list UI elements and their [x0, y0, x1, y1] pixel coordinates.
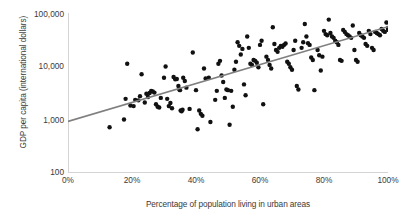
- x-tick-0: 0%: [48, 176, 88, 184]
- data-point: [229, 89, 233, 93]
- data-point: [352, 48, 356, 52]
- data-point: [291, 48, 295, 52]
- data-point: [371, 48, 375, 52]
- data-point: [231, 105, 235, 109]
- data-point: [384, 20, 388, 24]
- data-point: [365, 44, 369, 48]
- data-point: [271, 25, 275, 29]
- data-point: [319, 68, 323, 72]
- y-tick-1000: 1,000: [18, 116, 64, 124]
- data-point: [159, 96, 163, 100]
- data-point: [163, 64, 167, 68]
- data-point: [312, 88, 316, 92]
- data-point: [200, 114, 204, 118]
- data-point: [162, 76, 166, 80]
- data-point: [131, 104, 135, 108]
- data-point: [143, 100, 147, 104]
- y-axis-tick-labels: 100,000 10,000 1,000 100: [14, 0, 64, 217]
- data-point: [187, 107, 191, 111]
- data-point: [272, 42, 276, 46]
- data-point: [227, 123, 231, 127]
- data-point: [240, 47, 244, 51]
- x-tick-80: 80%: [304, 176, 344, 184]
- x-tick-40: 40%: [176, 176, 216, 184]
- data-point: [191, 50, 195, 54]
- data-point: [269, 66, 273, 70]
- data-point: [208, 120, 212, 124]
- data-point: [293, 39, 297, 43]
- data-layer: [68, 13, 388, 172]
- data-point: [213, 98, 217, 102]
- data-point: [311, 58, 315, 62]
- data-point: [215, 89, 219, 93]
- data-point: [355, 60, 359, 64]
- data-point: [125, 62, 129, 66]
- data-point: [175, 77, 179, 81]
- data-point: [304, 34, 308, 38]
- data-point: [299, 46, 303, 50]
- data-point: [258, 43, 262, 47]
- x-tick-100: 100%: [368, 176, 402, 184]
- data-point: [261, 102, 265, 106]
- data-point: [301, 40, 305, 44]
- data-point: [234, 60, 238, 64]
- data-point: [223, 96, 227, 100]
- data-point: [138, 94, 142, 98]
- data-point: [218, 59, 222, 63]
- data-point: [378, 33, 382, 37]
- data-point: [296, 87, 300, 91]
- scatter-chart: GDP per capita (international dollars) 1…: [0, 0, 402, 217]
- trend-line: [68, 27, 388, 122]
- data-point: [320, 54, 324, 58]
- data-point: [362, 36, 366, 40]
- data-point: [247, 46, 251, 50]
- x-tick-20: 20%: [112, 176, 152, 184]
- data-point: [122, 117, 126, 121]
- data-point: [195, 127, 199, 131]
- x-tick-60: 60%: [240, 176, 280, 184]
- data-point: [339, 59, 343, 63]
- data-point: [351, 23, 355, 27]
- data-point: [180, 107, 184, 111]
- data-point: [183, 79, 187, 83]
- x-axis-line: [68, 172, 388, 173]
- data-point: [239, 52, 243, 56]
- data-point: [307, 43, 311, 47]
- data-point: [221, 80, 225, 84]
- data-point: [202, 66, 206, 70]
- data-point: [157, 105, 161, 109]
- data-point: [123, 97, 127, 101]
- data-point: [168, 101, 172, 105]
- data-point: [336, 43, 340, 47]
- data-point: [152, 90, 156, 94]
- data-point: [245, 34, 249, 38]
- data-point: [165, 97, 169, 101]
- plot-area: [68, 13, 388, 172]
- data-point: [170, 106, 174, 110]
- scatter-points: [107, 17, 388, 131]
- data-point: [139, 72, 143, 76]
- x-axis-title: Percentage of population living in urban…: [68, 199, 388, 209]
- data-point: [194, 88, 198, 92]
- data-point: [242, 82, 246, 86]
- data-point: [107, 125, 111, 129]
- data-point: [275, 50, 279, 54]
- y-tick-100000: 100,000: [18, 10, 64, 18]
- data-point: [303, 22, 307, 26]
- data-point: [237, 44, 241, 48]
- data-point: [327, 17, 331, 21]
- data-point: [243, 93, 247, 97]
- data-point: [290, 68, 294, 72]
- data-point: [259, 39, 263, 43]
- y-tick-10000: 10,000: [18, 62, 64, 70]
- data-point: [283, 41, 287, 45]
